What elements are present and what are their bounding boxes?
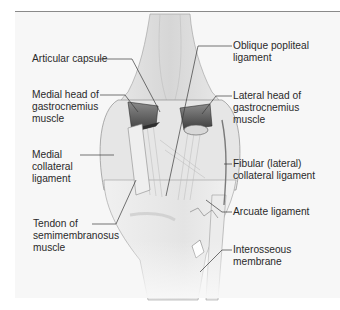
- label-arcuate-ligament: Arcuate ligament: [233, 206, 309, 218]
- label-medial-head-gastrocnemius: Medial head of gastrocnemius muscle: [32, 89, 99, 125]
- label-fibular-collateral-ligament: Fibular (lateral) collateral ligament: [233, 158, 315, 182]
- label-tendon-semimembranosus: Tendon of semimembranosus muscle: [33, 218, 119, 254]
- label-interosseous-membrane: Interosseous membrane: [233, 244, 291, 268]
- label-medial-collateral-ligament: Medial collateral ligament: [32, 149, 73, 185]
- label-oblique-popliteal-ligament: Oblique popliteal ligament: [233, 40, 309, 64]
- label-articular-capsule: Articular capsule: [32, 53, 107, 65]
- label-lateral-head-gastrocnemius: Lateral head of gastrocnemius muscle: [233, 90, 301, 126]
